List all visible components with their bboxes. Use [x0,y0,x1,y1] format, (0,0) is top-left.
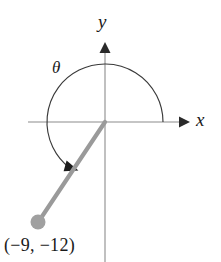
figure-canvas [0,0,221,262]
y-axis-arrowhead-icon [100,42,111,53]
x-axis-arrowhead-icon [179,117,190,128]
trig-figure: y x θ (−9, −12) [0,0,221,262]
terminal-point-dot [31,215,46,230]
angle-theta-label: θ [52,59,60,76]
y-axis-label: y [98,12,106,31]
terminal-point-label: (−9, −12) [4,236,75,254]
x-axis-label: x [196,110,204,129]
